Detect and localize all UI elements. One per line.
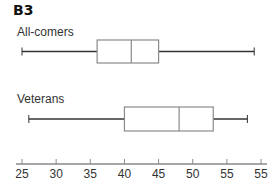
iqr-box <box>97 40 158 63</box>
tick-label: 55 <box>220 167 234 181</box>
boxes-group <box>22 40 254 131</box>
tick-label: 35 <box>84 167 98 181</box>
tick-label: 30 <box>49 167 63 181</box>
box-all-comers <box>22 40 254 63</box>
box-veterans <box>29 107 248 131</box>
tick-label: 40 <box>118 167 132 181</box>
boxplot-chart: 2530354045505555 <box>0 0 273 188</box>
tick-label: 45 <box>152 167 166 181</box>
x-axis: 2530354045505555 <box>15 159 268 181</box>
tick-label: 50 <box>186 167 200 181</box>
iqr-box <box>124 107 213 131</box>
tick-label: 25 <box>15 167 29 181</box>
tick-label: 55 <box>254 167 268 181</box>
